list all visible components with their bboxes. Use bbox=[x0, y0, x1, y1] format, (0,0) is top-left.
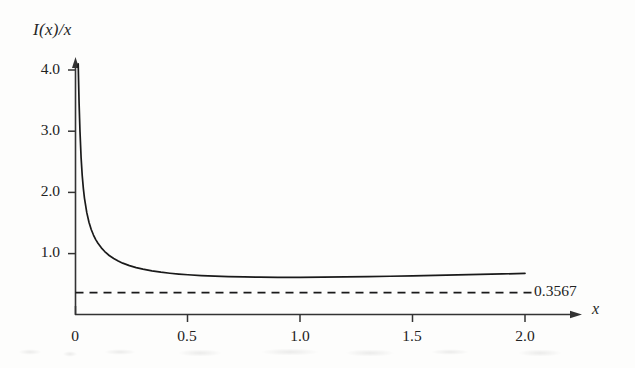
y-axis-label: I(x)/x bbox=[33, 20, 72, 40]
y-tick-label-3: 3.0 bbox=[20, 121, 60, 139]
chart-figure: I(x)/x x 4.0 3.0 2.0 1.0 0 0.5 1.0 1.5 2… bbox=[0, 0, 635, 368]
asymptote-value-label: 0.3567 bbox=[534, 282, 577, 300]
y-tick-label-1: 1.0 bbox=[20, 243, 60, 261]
x-axis bbox=[75, 311, 582, 318]
plot-canvas bbox=[0, 0, 635, 368]
x-tick-label-1-0: 1.0 bbox=[275, 327, 325, 345]
x-tick-label-1-5: 1.5 bbox=[387, 327, 437, 345]
y-tick-label-2: 2.0 bbox=[20, 182, 60, 200]
x-tick-label-0: 0 bbox=[50, 327, 100, 345]
x-axis-label: x bbox=[592, 300, 599, 318]
data-curve bbox=[78, 64, 525, 277]
x-tick-label-2-0: 2.0 bbox=[500, 327, 550, 345]
y-tick-label-4: 4.0 bbox=[20, 60, 60, 78]
y-axis bbox=[72, 57, 79, 315]
y-axis-ticks bbox=[68, 70, 76, 254]
x-tick-label-0-5: 0.5 bbox=[162, 327, 212, 345]
